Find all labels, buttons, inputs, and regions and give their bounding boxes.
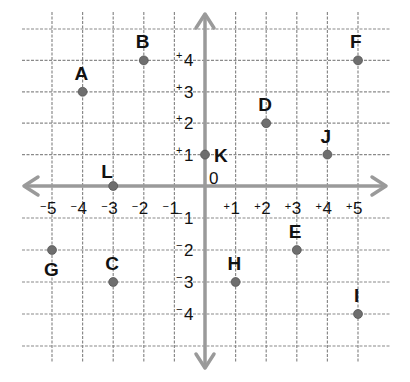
point-label: F xyxy=(350,31,362,52)
svg-text:1: 1 xyxy=(184,209,193,228)
y-tick-label: −3 xyxy=(176,271,193,292)
point-marker xyxy=(109,278,118,287)
x-tick-label: −4 xyxy=(71,199,87,218)
coordinate-plane: 0 −5−4−3−2−1+1+2+3+4+5 +4+3+2+1−1−2−3−4 … xyxy=(0,0,410,382)
y-tick-label: −1 xyxy=(176,207,193,228)
point-marker xyxy=(354,310,363,319)
point-e: E xyxy=(289,221,302,255)
point-label: G xyxy=(44,259,59,280)
svg-text:4: 4 xyxy=(78,199,87,218)
x-tick-label: −2 xyxy=(132,199,148,218)
svg-text:+: + xyxy=(176,144,182,156)
point-label: J xyxy=(320,126,331,147)
point-marker xyxy=(78,87,87,96)
y-tick-label: −2 xyxy=(176,239,193,260)
point-g: G xyxy=(44,246,59,281)
svg-text:−: − xyxy=(176,207,182,219)
point-marker xyxy=(201,150,210,159)
y-tick-label: −4 xyxy=(176,303,193,324)
x-tick-label: −3 xyxy=(101,199,117,218)
x-tick-label: +1 xyxy=(224,199,240,218)
point-marker xyxy=(231,278,240,287)
svg-text:1: 1 xyxy=(184,146,193,165)
x-tick-label: +4 xyxy=(315,199,331,218)
svg-text:2: 2 xyxy=(261,199,270,218)
point-label: H xyxy=(228,253,242,274)
point-label: D xyxy=(258,94,272,115)
point-b: B xyxy=(136,31,150,65)
svg-text:+: + xyxy=(346,200,352,212)
y-tick-label: +4 xyxy=(176,49,193,70)
svg-text:−: − xyxy=(176,303,182,315)
svg-text:3: 3 xyxy=(184,83,193,102)
y-tick-label: +2 xyxy=(176,112,193,133)
svg-text:2: 2 xyxy=(184,114,193,133)
svg-text:5: 5 xyxy=(353,199,362,218)
point-label: L xyxy=(101,161,113,182)
point-marker xyxy=(323,150,332,159)
svg-text:4: 4 xyxy=(184,305,193,324)
svg-text:2: 2 xyxy=(184,241,193,260)
svg-text:−: − xyxy=(176,239,182,251)
svg-text:−: − xyxy=(101,200,107,212)
point-marker xyxy=(139,56,148,65)
point-label: A xyxy=(75,63,89,84)
point-d: D xyxy=(258,94,272,128)
x-tick-label: +3 xyxy=(285,199,301,218)
point-label: C xyxy=(105,253,119,274)
svg-text:+: + xyxy=(176,81,182,93)
svg-text:5: 5 xyxy=(47,199,56,218)
point-label: I xyxy=(354,285,359,306)
x-tick-labels: −5−4−3−2−1+1+2+3+4+5 xyxy=(40,199,362,218)
point-label: B xyxy=(136,31,150,52)
svg-text:+: + xyxy=(254,200,260,212)
svg-text:+: + xyxy=(176,49,182,61)
point-i: I xyxy=(354,285,363,319)
x-tick-label: +5 xyxy=(346,199,362,218)
y-tick-label: +3 xyxy=(176,81,193,102)
point-marker xyxy=(262,119,271,128)
point-j: J xyxy=(320,126,332,160)
svg-text:+: + xyxy=(176,112,182,124)
svg-text:+: + xyxy=(224,200,230,212)
x-tick-label: −5 xyxy=(40,199,56,218)
svg-text:4: 4 xyxy=(322,199,331,218)
svg-text:−: − xyxy=(132,200,138,212)
svg-text:3: 3 xyxy=(108,199,117,218)
svg-text:−: − xyxy=(40,200,46,212)
svg-text:2: 2 xyxy=(139,199,148,218)
origin-label: 0 xyxy=(209,169,218,188)
point-marker xyxy=(292,246,301,255)
svg-text:+: + xyxy=(285,200,291,212)
point-c: C xyxy=(105,253,119,287)
point-marker xyxy=(109,182,118,191)
point-label: K xyxy=(214,145,228,166)
svg-text:3: 3 xyxy=(184,273,193,292)
point-marker xyxy=(354,56,363,65)
svg-text:4: 4 xyxy=(184,51,193,70)
point-marker xyxy=(48,246,57,255)
svg-text:3: 3 xyxy=(292,199,301,218)
svg-text:+: + xyxy=(315,200,321,212)
svg-text:−: − xyxy=(162,200,168,212)
x-tick-label: +2 xyxy=(254,199,270,218)
y-tick-label: +1 xyxy=(176,144,193,165)
svg-text:−: − xyxy=(176,271,182,283)
svg-text:−: − xyxy=(71,200,77,212)
svg-text:1: 1 xyxy=(231,199,240,218)
point-label: E xyxy=(289,221,302,242)
